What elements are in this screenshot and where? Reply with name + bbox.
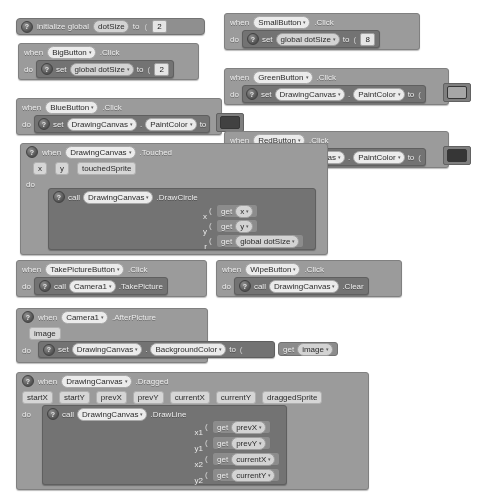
global-variable-name[interactable]: dotSize (93, 20, 129, 33)
variable-dropdown-global-dotsize[interactable]: global dotSize ▾ (235, 235, 299, 248)
chevron-down-icon: ▾ (129, 147, 132, 158)
statement-set-paintcolor[interactable]: ? set DrawingCanvas ▾ . PaintColor ▾ to … (242, 85, 426, 103)
value-get-currenty[interactable]: get currentY ▾ (212, 468, 280, 482)
event-param-currentx[interactable]: currentX (170, 391, 210, 404)
statement-call-clear[interactable]: ? call DrawingCanvas ▾ .Clear (234, 277, 369, 295)
statement-call-takepicture[interactable]: ? call Camera1 ▾ .TakePicture (34, 277, 168, 295)
variable-dropdown-image[interactable]: image ▾ (297, 343, 333, 356)
property-dropdown-backgroundcolor[interactable]: BackgroundColor ▾ (150, 343, 226, 356)
variable-dropdown-prevy[interactable]: prevY ▾ (231, 437, 266, 450)
value-get-prevx[interactable]: get prevX ▾ (212, 420, 271, 434)
block-wipebutton-click[interactable]: when WipeButton ▾ .Click do ? call Drawi… (216, 260, 402, 297)
value-get-global-dotsize[interactable]: get global dotSize ▾ (216, 234, 304, 248)
gear-icon[interactable]: ? (22, 311, 34, 323)
block-takepicturebutton-click[interactable]: when TakePictureButton ▾ .Click do ? cal… (16, 260, 207, 297)
component-dropdown-bigbutton[interactable]: BigButton ▾ (47, 46, 96, 59)
block-bluebutton-click[interactable]: when BlueButton ▾ .Click do ? set Drawin… (16, 98, 222, 135)
number-literal[interactable]: 8 (360, 33, 375, 46)
object-dropdown-camera1[interactable]: Camera1 ▾ (69, 280, 116, 293)
call-keyword: call (62, 410, 74, 419)
gear-icon[interactable]: ? (246, 88, 258, 100)
object-dropdown-drawingcanvas[interactable]: DrawingCanvas ▾ (275, 88, 345, 101)
component-dropdown-takepicturebutton[interactable]: TakePictureButton ▾ (45, 263, 124, 276)
block-smallbutton-click[interactable]: when SmallButton ▾ .Click do ? set globa… (224, 13, 420, 50)
component-dropdown-smallbutton[interactable]: SmallButton ▾ (253, 16, 310, 29)
statement-set-paintcolor[interactable]: ? set DrawingCanvas ▾ . PaintColor ▾ to (34, 115, 210, 133)
value-get-y[interactable]: get y ▾ (216, 219, 258, 233)
set-keyword: set (56, 65, 67, 74)
event-param-image[interactable]: image (29, 327, 61, 340)
event-param-currenty[interactable]: currentY (216, 391, 256, 404)
statement-set-global-dotsize[interactable]: ? set global dotSize ▾ to ( 2 (36, 60, 174, 78)
event-param-x[interactable]: x (33, 162, 47, 175)
gear-icon[interactable]: ? (22, 375, 34, 387)
gear-icon[interactable]: ? (47, 408, 59, 420)
component-dropdown-drawingcanvas[interactable]: DrawingCanvas ▾ (65, 146, 135, 159)
gear-icon[interactable]: ? (38, 118, 50, 130)
chevron-down-icon: ▾ (246, 206, 249, 217)
event-name: .Click (100, 48, 120, 57)
arg-label-y: y (185, 220, 207, 235)
variable-dropdown-x[interactable]: x ▾ (235, 205, 253, 218)
block-greenbutton-click[interactable]: when GreenButton ▾ .Click do ? set Drawi… (224, 68, 449, 105)
color-block-blue[interactable] (216, 113, 244, 132)
variable-dropdown-currenty[interactable]: currentY ▾ (231, 469, 275, 482)
component-dropdown-bluebutton[interactable]: BlueButton ▾ (45, 101, 98, 114)
gear-icon[interactable]: ? (39, 280, 51, 292)
gear-icon[interactable]: ? (247, 33, 259, 45)
property-dropdown-paintcolor[interactable]: PaintColor ▾ (353, 88, 404, 101)
gear-icon[interactable]: ? (53, 191, 65, 203)
event-param-prevx[interactable]: prevX (96, 391, 127, 404)
number-literal[interactable]: 2 (154, 63, 169, 76)
variable-dropdown-y[interactable]: y ▾ (235, 220, 253, 233)
color-block-green[interactable] (443, 83, 471, 102)
object-dropdown-drawingcanvas[interactable]: DrawingCanvas ▾ (72, 343, 142, 356)
chevron-down-icon: ▾ (268, 454, 271, 465)
block-bigbutton-click[interactable]: when BigButton ▾ .Click do ? set global … (18, 43, 199, 80)
global-variable-dropdown[interactable]: global dotSize ▾ (70, 63, 134, 76)
statement-set-backgroundcolor[interactable]: ? set DrawingCanvas ▾ . BackgroundColor … (38, 341, 275, 358)
color-swatch-green[interactable] (447, 86, 467, 99)
statement-set-global-dotsize[interactable]: ? set global dotSize ▾ to ( 8 (242, 30, 380, 48)
object-dropdown-drawingcanvas[interactable]: DrawingCanvas ▾ (269, 280, 339, 293)
do-keyword: do (26, 180, 35, 189)
value-get-prevy[interactable]: get prevY ▾ (212, 436, 271, 450)
variable-dropdown-prevx[interactable]: prevX ▾ (231, 421, 266, 434)
gear-icon[interactable]: ? (21, 21, 33, 33)
gear-icon[interactable]: ? (41, 63, 53, 75)
object-dropdown-drawingcanvas[interactable]: DrawingCanvas ▾ (83, 191, 153, 204)
value-get-x[interactable]: get x ▾ (216, 204, 258, 218)
value-get-currentx[interactable]: get currentX ▾ (212, 452, 280, 466)
color-block-red[interactable] (443, 146, 471, 165)
gear-icon[interactable]: ? (239, 280, 251, 292)
chevron-down-icon: ▾ (293, 264, 296, 275)
component-dropdown-greenbutton[interactable]: GreenButton ▾ (253, 71, 312, 84)
arg-socket-x: ( (209, 206, 212, 215)
property-dropdown-paintcolor[interactable]: PaintColor ▾ (145, 118, 196, 131)
event-param-touchedsprite[interactable]: touchedSprite (77, 162, 136, 175)
value-get-image[interactable]: get image ▾ (278, 342, 338, 356)
when-keyword: when (222, 265, 241, 274)
blocks-workspace[interactable]: ? initialize global dotSize to ( 2 when … (0, 0, 478, 504)
event-param-starty[interactable]: startY (59, 391, 90, 404)
event-param-y[interactable]: y (55, 162, 69, 175)
object-dropdown-drawingcanvas[interactable]: DrawingCanvas ▾ (77, 408, 147, 421)
component-dropdown-wipebutton[interactable]: WipeButton ▾ (245, 263, 300, 276)
event-param-prevy[interactable]: prevY (133, 391, 164, 404)
event-param-startx[interactable]: startX (22, 391, 53, 404)
to-label: to (137, 65, 144, 74)
global-variable-dropdown[interactable]: global dotSize ▾ (276, 33, 340, 46)
variable-dropdown-currentx[interactable]: currentX ▾ (231, 453, 275, 466)
event-param-draggedsprite[interactable]: draggedSprite (262, 391, 322, 404)
do-keyword: do (230, 35, 239, 44)
gear-icon[interactable]: ? (43, 344, 55, 356)
gear-icon[interactable]: ? (26, 146, 38, 158)
component-dropdown-drawingcanvas[interactable]: DrawingCanvas ▾ (61, 375, 131, 388)
component-dropdown-camera1[interactable]: Camera1 ▾ (61, 311, 108, 324)
object-dropdown-drawingcanvas[interactable]: DrawingCanvas ▾ (67, 118, 137, 131)
color-swatch-blue[interactable] (220, 116, 240, 129)
color-swatch-red[interactable] (447, 149, 467, 162)
number-literal[interactable]: 2 (152, 20, 167, 33)
property-dropdown-paintcolor[interactable]: PaintColor ▾ (353, 151, 404, 164)
block-initialize-global-dotsize[interactable]: ? initialize global dotSize to ( 2 (16, 18, 205, 35)
